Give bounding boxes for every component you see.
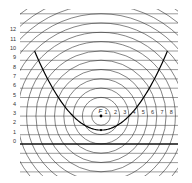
radius-label: 1 (105, 109, 108, 115)
level-label: 9 (13, 54, 16, 60)
level-label: 1 (13, 129, 16, 135)
level-label: 10 (10, 45, 16, 51)
radius-circle (8, 23, 192, 183)
level-label: 12 (10, 26, 16, 32)
radius-label: 2 (114, 109, 117, 115)
level-label: 6 (13, 82, 16, 88)
radius-circle (0, 0, 192, 183)
radius-circle (0, 0, 192, 183)
radius-circle (0, 0, 192, 183)
radius-circle (0, 4, 192, 183)
level-label: 5 (13, 92, 16, 98)
level-label: 0 (13, 138, 16, 144)
vertex-dot-icon (100, 129, 102, 131)
radius-circle (0, 0, 192, 183)
level-label: 3 (13, 110, 16, 116)
radius-circle (0, 0, 192, 183)
level-label: 11 (10, 36, 16, 42)
parabola-diagram: 0123456789101112 12345678 F (0, 0, 192, 183)
level-label: 2 (13, 119, 16, 125)
radius-circle (0, 0, 192, 183)
radius-label: 7 (160, 109, 163, 115)
level-label: 7 (13, 73, 16, 79)
horizontal-grid-lines (20, 14, 178, 172)
radius-label: 3 (123, 109, 126, 115)
level-label: 4 (13, 101, 16, 107)
focus-dot-icon (100, 115, 103, 118)
radius-label: 8 (170, 109, 173, 115)
radius-label: 6 (151, 109, 154, 115)
radius-label: 5 (142, 109, 145, 115)
radius-label: 4 (132, 109, 135, 115)
level-labels: 0123456789101112 (10, 26, 16, 144)
focus-label: F (99, 108, 103, 114)
radius-labels: 12345678 (105, 109, 173, 115)
level-label: 8 (13, 64, 16, 70)
concentric-circles (0, 0, 192, 183)
